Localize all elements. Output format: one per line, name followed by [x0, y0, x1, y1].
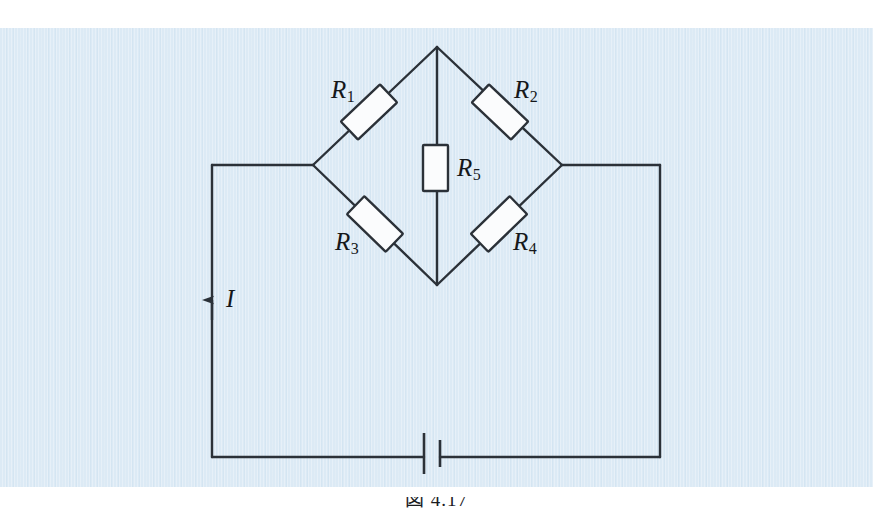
resistor-label-R3-subscript: 3: [351, 240, 359, 257]
circuit-diagram-svg: [0, 0, 873, 515]
resistor-label-R3: R3: [335, 228, 359, 258]
resistor-label-R1-name: R: [331, 76, 346, 103]
resistor-label-R3-name: R: [335, 228, 350, 255]
resistor-label-R2-subscript: 2: [530, 88, 538, 105]
resistor-label-R4-name: R: [513, 228, 528, 255]
battery-symbol[interactable]: [424, 433, 440, 474]
resistor-label-R5: R5: [457, 154, 481, 184]
current-label-I: I: [226, 285, 234, 313]
figure-caption: 図 4.17: [0, 497, 873, 511]
resistor-label-R4: R4: [513, 228, 537, 258]
resistor-label-R5-name: R: [457, 154, 472, 181]
resistor-label-R2: R2: [514, 76, 538, 106]
resistor-label-R4-subscript: 4: [529, 240, 537, 257]
resistor-R5-body: [423, 145, 448, 191]
resistor-label-R5-subscript: 5: [473, 166, 481, 183]
resistor-label-R1-subscript: 1: [347, 88, 355, 105]
resistor-label-R2-name: R: [514, 76, 529, 103]
figure-root: R1 R2 R3 R4 R5 I 図 4.17: [0, 0, 873, 515]
resistor-label-R1: R1: [331, 76, 355, 106]
figure-caption-strip: 図 4.17: [0, 497, 873, 515]
resistor-R5[interactable]: [423, 145, 448, 191]
